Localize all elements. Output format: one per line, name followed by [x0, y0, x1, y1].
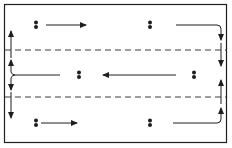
- diagram-canvas: [0, 0, 232, 148]
- dot-pair-top-left: [34, 21, 38, 30]
- fork-line: [11, 72, 60, 78]
- dot-pair-bottom-right: [148, 119, 152, 128]
- arrow-turn-down-icon: [176, 25, 221, 40]
- dot-pair-top-right: [148, 21, 152, 30]
- dot-pair-middle-left: [77, 71, 81, 80]
- dot-pair-bottom-left: [34, 119, 38, 128]
- arrow-turn-up-icon: [173, 108, 221, 123]
- dot-pair-middle-right: [192, 71, 196, 80]
